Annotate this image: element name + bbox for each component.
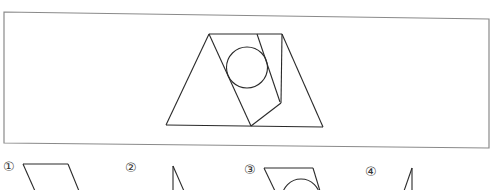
option-1-shape[interactable] bbox=[23, 164, 79, 190]
option-3-label[interactable]: ③ bbox=[244, 163, 256, 176]
figure-circle bbox=[227, 47, 268, 88]
question-figure bbox=[166, 34, 323, 127]
option-4-label[interactable]: ④ bbox=[365, 165, 377, 178]
bottom-fold-line bbox=[251, 103, 281, 126]
strip-right-line bbox=[257, 34, 280, 102]
strip-left-line bbox=[209, 34, 251, 126]
figure-left-edge bbox=[166, 34, 209, 125]
figure-bottom-edge bbox=[166, 125, 323, 127]
option-1-label[interactable]: ① bbox=[3, 160, 15, 173]
option-3-shape[interactable] bbox=[264, 168, 320, 190]
option-2-label[interactable]: ② bbox=[125, 161, 137, 174]
option-4-shape[interactable] bbox=[404, 168, 412, 190]
right-vertical-line bbox=[281, 34, 282, 103]
question-frame bbox=[4, 12, 489, 148]
figure-right-edge bbox=[282, 34, 323, 127]
option-2-shape[interactable] bbox=[173, 166, 184, 190]
